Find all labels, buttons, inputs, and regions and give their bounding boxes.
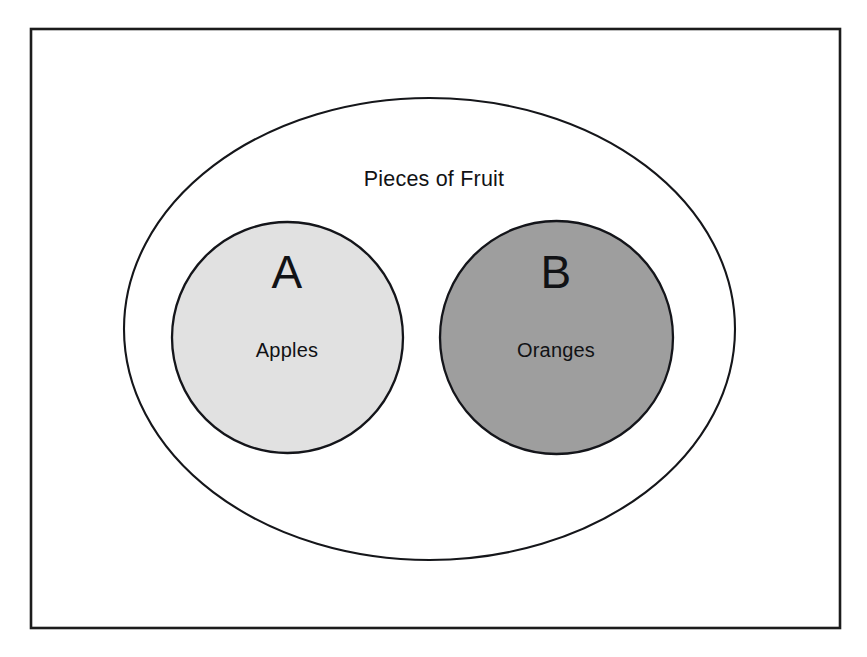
set-b-name-label: Oranges xyxy=(517,339,595,361)
universal-set-label: Pieces of Fruit xyxy=(364,167,504,191)
set-a-name-label: Apples xyxy=(256,339,318,361)
set-a-letter: A xyxy=(271,246,302,298)
set-b-letter: B xyxy=(540,246,571,298)
diagram-canvas: Pieces of Fruit A Apples B Oranges xyxy=(0,0,867,657)
venn-diagram-figure: Pieces of Fruit A Apples B Oranges xyxy=(0,0,867,657)
